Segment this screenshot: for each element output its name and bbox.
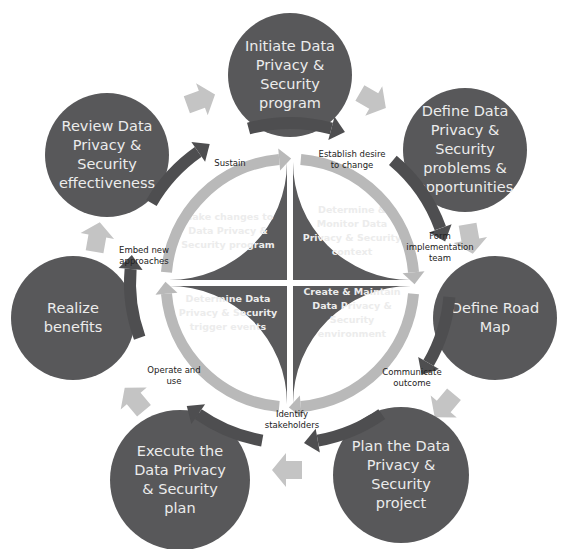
transition-label-embed: Embed newapproaches	[119, 245, 169, 266]
ring-arrowhead-icon	[403, 271, 425, 284]
arrowhead-icon	[304, 429, 320, 453]
quadrant-label: Determine DataPrivacy & Securitytrigger …	[179, 293, 278, 332]
step-realize: Realizebenefits	[11, 256, 135, 380]
quadrant-label: Make changes toData Privacy &Security pr…	[181, 211, 275, 250]
transition-label-operate: Operate anduse	[147, 365, 200, 386]
transition-label-communicate: Communicateoutcome	[382, 367, 441, 388]
transition-label-sustain: Sustain	[214, 158, 246, 168]
flow-arrow-icon	[78, 219, 117, 254]
ring-arrowhead-icon	[156, 282, 178, 295]
transition-arrow	[130, 269, 140, 338]
transition-arrow	[249, 123, 332, 128]
lifecycle-diagram: Initiate DataPrivacy &SecurityprogramDef…	[0, 0, 572, 549]
flow-arrow-icon	[112, 377, 157, 422]
flow-arrow-icon	[351, 78, 394, 122]
flow-arrow-icon	[181, 79, 221, 121]
ring-arrowhead-icon	[278, 149, 291, 171]
transition-label-identify: Identifystakeholders	[265, 409, 320, 430]
flow-arrow-icon	[272, 453, 302, 487]
